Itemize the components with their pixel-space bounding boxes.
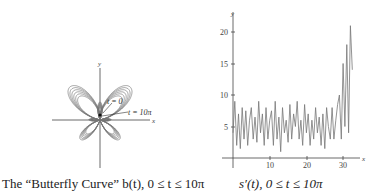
y-axis-label: y — [97, 60, 102, 68]
y-axis-label: y — [230, 10, 235, 18]
speed-plot: 10 20 30 5 10 15 20 x y — [220, 10, 366, 170]
y-tick-15: 15 — [220, 60, 228, 69]
caption-right: s′(t), 0 ≤ t ≤ 10π — [239, 176, 323, 192]
figure-canvas: t = 0 t = 10π x y 10 20 30 5 10 15 20 x … — [0, 0, 379, 196]
label-t0: t = 0 — [107, 97, 123, 106]
tick-labels: 10 20 30 5 10 15 20 — [220, 28, 347, 170]
label-t10pi: t = 10π — [128, 108, 153, 117]
x-axis-label: x — [151, 117, 156, 125]
x-tick-10: 10 — [266, 161, 274, 170]
x-tick-30: 30 — [339, 161, 347, 170]
x-tick-20: 20 — [303, 161, 311, 170]
speed-series-line — [233, 26, 352, 152]
butterfly-plot: t = 0 t = 10π x y — [52, 60, 156, 168]
caption-left: The “Butterfly Curve” b(t), 0 ≤ t ≤ 10π — [2, 176, 204, 192]
y-tick-5: 5 — [224, 123, 228, 132]
y-tick-10: 10 — [220, 91, 228, 100]
y-tick-20: 20 — [220, 28, 228, 37]
start-point-marker — [98, 113, 101, 116]
x-axis-label: x — [361, 155, 366, 163]
